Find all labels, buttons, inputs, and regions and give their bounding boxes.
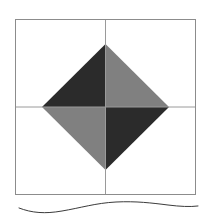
wave-rule-svg [0,0,210,218]
hand-drawn-wave-rule [19,202,198,213]
quilt-block-figure [0,0,210,218]
